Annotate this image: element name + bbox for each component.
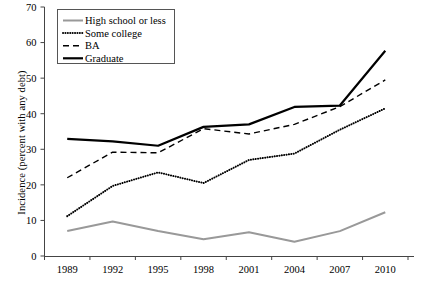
x-tick-label: 1995 — [148, 264, 169, 275]
y-tick-label: 50 — [26, 73, 37, 84]
legend-item-label: Some college — [85, 28, 142, 39]
x-tick-label: 2004 — [284, 264, 306, 275]
legend-item-label: Graduate — [85, 53, 124, 64]
x-tick-label: 2010 — [375, 264, 396, 275]
legend-item-label: High school or less — [85, 15, 166, 26]
legend-item-label: BA — [85, 40, 100, 51]
x-tick-label: 1989 — [57, 264, 78, 275]
chart-canvas: 010203040506070 198919921995199820012004… — [0, 0, 423, 285]
series-line-0 — [67, 212, 385, 242]
y-tick-label: 60 — [26, 37, 37, 48]
x-tick-label: 1992 — [102, 264, 123, 275]
line-chart: Incidence (percent with any debt) 010203… — [0, 0, 423, 285]
series-line-2 — [67, 80, 385, 178]
y-tick-label: 40 — [26, 109, 37, 120]
x-axis-ticks: 19891992199519982001200420072010 — [45, 256, 409, 275]
y-tick-label: 10 — [26, 215, 37, 226]
y-tick-label: 30 — [26, 144, 37, 155]
series-lines — [67, 51, 385, 242]
y-tick-label: 20 — [26, 180, 37, 191]
y-axis-ticks: 010203040506070 — [26, 2, 45, 262]
y-tick-label: 70 — [26, 2, 37, 13]
y-tick-label: 0 — [31, 251, 36, 262]
x-tick-label: 1998 — [193, 264, 214, 275]
x-tick-label: 2001 — [238, 264, 259, 275]
chart-legend: High school or lessSome collegeBAGraduat… — [58, 10, 175, 65]
x-tick-label: 2007 — [329, 264, 350, 275]
